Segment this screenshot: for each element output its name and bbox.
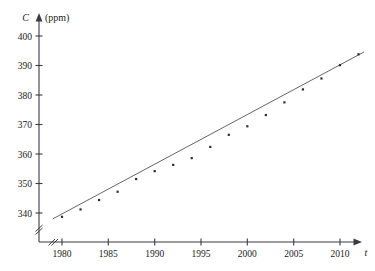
y-tick-label-340: 340 [18,209,33,219]
x-tick-label-1985: 1985 [99,249,118,259]
data-point [246,125,248,127]
chart-canvas: 400 390 380 370 360 350 340 C (ppm) [0,0,375,271]
y-tick-label-370: 370 [18,120,33,130]
y-axis-tick-labels: 400 390 380 370 360 350 340 [18,32,33,219]
data-point [265,114,267,116]
x-tick-label-1995: 1995 [192,249,211,259]
y-axis-arrow-icon [36,13,43,22]
data-point [61,216,63,218]
x-tick-label-1980: 1980 [53,249,72,259]
regression-line [53,52,364,219]
y-tick-label-350: 350 [18,179,33,189]
data-point [209,146,211,148]
x-axis-arrow-icon [354,239,363,246]
data-point [172,164,174,166]
x-axis-group: 1980 1985 1990 1995 2000 2005 2010 t [39,239,368,260]
data-point [283,101,285,103]
data-point [154,170,156,172]
data-point [302,88,304,90]
x-tick-label-2005: 2005 [284,249,303,259]
x-axis-tick-labels: 1980 1985 1990 1995 2000 2005 2010 [53,249,350,259]
y-tick-label-390: 390 [18,61,33,71]
data-point [339,64,341,66]
data-point [135,178,137,180]
data-point [98,199,100,201]
data-point [357,53,359,55]
y-tick-label-400: 400 [18,32,33,42]
y-axis-unit-label: (ppm) [45,12,69,24]
x-tick-label-1990: 1990 [145,249,164,259]
y-tick-label-380: 380 [18,91,33,101]
y-axis-label: C [22,12,29,23]
data-point [228,134,230,136]
data-point [117,191,119,193]
y-tick-label-360: 360 [18,150,33,160]
x-tick-label-2010: 2010 [331,249,350,259]
x-axis-label: t [365,247,368,258]
x-tick-label-2000: 2000 [238,249,257,259]
data-point [320,77,322,79]
y-axis-group: 400 390 380 370 360 350 340 C (ppm) [18,12,70,242]
data-point [191,157,193,159]
co2-scatter-chart: 400 390 380 370 360 350 340 C (ppm) [0,0,375,271]
data-point [79,208,81,210]
